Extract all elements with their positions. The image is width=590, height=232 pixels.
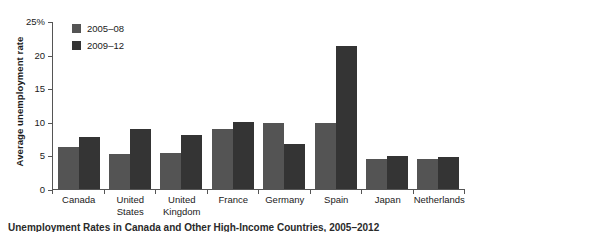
bar-group [413, 22, 464, 189]
bar [109, 154, 130, 189]
x-axis-label-line: Spain [311, 194, 363, 206]
y-tick-label: 5 [40, 152, 45, 162]
bar [181, 135, 202, 189]
legend-label: 2005–08 [87, 23, 124, 34]
x-axis-label: UnitedStates [105, 194, 157, 217]
bar [79, 137, 100, 189]
bar [212, 129, 233, 189]
x-axis-label-line: France [208, 194, 260, 206]
x-axis-label: Canada [53, 194, 105, 217]
x-axis-label: Germany [259, 194, 311, 217]
bar-group [207, 22, 258, 189]
x-axis-label-line: Japan [362, 194, 414, 206]
bar [160, 153, 181, 189]
bar-group [156, 22, 207, 189]
bar [438, 157, 459, 189]
x-axis-label-line: States [105, 206, 157, 218]
x-axis-label: UnitedKingdom [156, 194, 208, 217]
chart-legend: 2005–082009–12 [72, 20, 124, 54]
chart-figure: Average unemployment rate 0510152025% Ca… [0, 0, 590, 232]
bar [315, 123, 336, 189]
bar-group [259, 22, 310, 189]
y-tick-label: 25% [26, 17, 45, 27]
bar [387, 156, 408, 189]
bar [284, 144, 305, 189]
legend-label: 2009–12 [87, 40, 124, 51]
figure-caption: Unemployment Rates in Canada and Other H… [8, 222, 588, 232]
bar [58, 147, 79, 189]
bar-group [361, 22, 412, 189]
x-axis-label-line: Canada [53, 194, 105, 206]
bar [417, 159, 438, 189]
x-axis-label-line: Germany [259, 194, 311, 206]
y-tick-label: 15 [34, 84, 45, 94]
x-axis-label: Netherlands [414, 194, 466, 217]
bar [263, 123, 284, 189]
legend-item[interactable]: 2009–12 [72, 37, 124, 54]
x-axis-label-line: United [105, 194, 157, 206]
legend-item[interactable]: 2005–08 [72, 20, 124, 37]
bar [130, 129, 151, 189]
bar [336, 46, 357, 189]
x-axis-label: Spain [311, 194, 363, 217]
legend-swatch-icon [72, 24, 81, 33]
y-tick-label: 10 [34, 118, 45, 128]
x-axis-label: Japan [362, 194, 414, 217]
bar-group [310, 22, 361, 189]
y-tick-label: 0 [40, 185, 45, 195]
x-axis-label-line: Netherlands [414, 194, 466, 206]
x-axis-labels: CanadaUnitedStatesUnitedKingdomFranceGer… [53, 194, 465, 217]
x-axis-label: France [208, 194, 260, 217]
legend-swatch-icon [72, 41, 81, 50]
y-axis-title: Average unemployment rate [14, 17, 25, 187]
x-axis-label-line: United [156, 194, 208, 206]
x-axis-label-line: Kingdom [156, 206, 208, 218]
y-tick-label: 20 [34, 51, 45, 61]
bar [233, 122, 254, 189]
bar [366, 159, 387, 189]
